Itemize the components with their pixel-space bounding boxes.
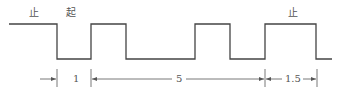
dim-stop-bits: 1.5 (283, 74, 303, 84)
arrow-left-icon (92, 77, 97, 81)
dim-start-bit: 1 (71, 74, 81, 84)
dim-data-bits: 5 (174, 74, 184, 84)
arrow-right-icon (311, 77, 316, 81)
label-stop-right: 止 (288, 8, 298, 18)
arrow-right-icon (259, 77, 264, 81)
waveform (9, 24, 332, 59)
arrow-right-icon (51, 77, 56, 81)
label-stop-left: 止 (29, 8, 39, 18)
label-start: 起 (66, 8, 76, 18)
arrow-left-icon (266, 77, 271, 81)
